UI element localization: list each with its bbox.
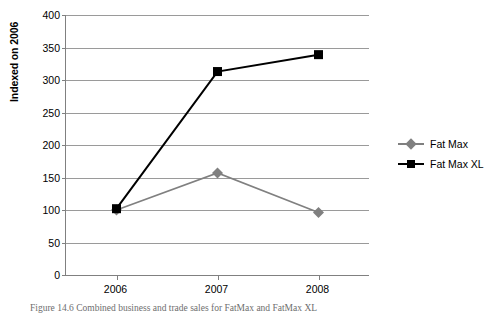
series-1 (111, 167, 324, 218)
data-point-diamond (313, 207, 324, 218)
data-point-square (314, 50, 323, 59)
legend-swatch-diamond-icon (398, 138, 424, 150)
legend-item[interactable]: Fat Max XL (398, 154, 486, 174)
data-point-diamond (212, 167, 223, 178)
y-axis-title: Indexed on 2006 (8, 0, 20, 102)
y-axis-tick-labels: 050100150200250300350400 (28, 15, 60, 275)
y-axis-tick-label: 100 (28, 205, 60, 215)
figure-container: Indexed on 2006 050100150200250300350400… (0, 0, 489, 316)
data-point-square (112, 204, 121, 213)
y-axis-tick-label: 150 (28, 173, 60, 183)
chart-legend: Fat MaxFat Max XL (398, 134, 486, 174)
legend-item[interactable]: Fat Max (398, 134, 486, 154)
y-axis-tick-label: 350 (28, 43, 60, 53)
y-axis-tick-label: 300 (28, 75, 60, 85)
x-axis-tickmark (218, 275, 219, 280)
x-axis-tickmark (117, 275, 118, 280)
x-axis-tick-label: 2008 (288, 283, 348, 295)
series-line (117, 173, 319, 213)
y-axis-tick-label: 50 (28, 238, 60, 248)
plot-area (65, 15, 369, 276)
x-axis-tick-label: 2007 (187, 283, 247, 295)
data-point-square (213, 67, 222, 76)
x-axis-tick-label: 2006 (86, 283, 146, 295)
legend-marker-diamond-icon (405, 138, 416, 149)
y-axis-tick-label: 0 (28, 270, 60, 280)
y-axis-tick-label: 400 (28, 10, 60, 20)
figure-caption: Figure 14.6 Combined business and trade … (30, 303, 489, 313)
y-axis-tick-label: 200 (28, 140, 60, 150)
legend-label: Fat Max (424, 138, 468, 150)
series-line (117, 55, 319, 209)
x-axis-tick-labels: 200620072008 (65, 283, 368, 299)
x-axis-tickmark (319, 275, 320, 280)
legend-swatch-square-icon (398, 158, 424, 170)
series-layer (66, 15, 369, 275)
series-2 (112, 50, 323, 213)
legend-label: Fat Max XL (424, 158, 484, 170)
y-axis-tick-label: 250 (28, 108, 60, 118)
legend-marker-square-icon (407, 160, 415, 168)
y-axis-tickmark (62, 275, 66, 276)
